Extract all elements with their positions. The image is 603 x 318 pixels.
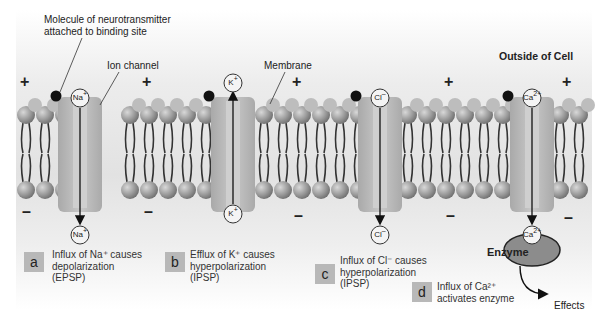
lipid-head: [437, 181, 455, 199]
lipid-tail: [575, 123, 584, 182]
lipid-tail: [404, 123, 413, 182]
positive-sign: +: [20, 74, 29, 90]
lipid-head: [140, 181, 158, 199]
lipid-tail: [336, 123, 345, 182]
panel-caption-b: Efflux of K⁺ causes hyperpolarization (I…: [190, 249, 275, 284]
lipid-head: [293, 181, 311, 199]
lipid-tail: [298, 123, 307, 182]
lipid-head: [17, 181, 35, 199]
lipid-head: [475, 181, 493, 199]
ion-label-k: K+: [224, 208, 242, 220]
panel-caption-a: Influx of Na⁺ causes depolarization (EPS…: [52, 249, 142, 284]
lipid-tail: [164, 123, 173, 182]
lipid-head: [274, 181, 292, 199]
ion-label-cl: Cl–: [371, 229, 389, 241]
leader-line: [270, 72, 285, 104]
lipid-head: [312, 181, 330, 199]
lipid-head-back: [189, 98, 203, 112]
lipid-tail: [461, 123, 470, 182]
panel-badge-a: a: [24, 252, 44, 272]
panel-badge-d: d: [412, 282, 432, 302]
neurotransmitter-molecule: [503, 91, 514, 102]
outside-of-cell-label: Outside of Cell: [499, 50, 573, 62]
neurotransmitter-annotation: Molecule of neurotransmitter attached to…: [44, 14, 171, 38]
ion-label-cl: Cl–: [371, 92, 389, 104]
lipid-head: [36, 181, 54, 199]
lipid-head: [570, 181, 588, 199]
lipid-head-back: [323, 98, 337, 112]
negative-sign: –: [564, 210, 573, 226]
lipid-head-back: [266, 98, 280, 112]
lipid-head-back: [28, 98, 42, 112]
lipid-head: [121, 181, 139, 199]
ion-channel-annotation: Ion channel: [107, 60, 159, 72]
leader-line: [60, 38, 82, 92]
neurotransmitter-molecule: [351, 91, 362, 102]
negative-sign: –: [446, 208, 455, 224]
panel-caption-d: Influx of Ca²⁺ activates enzyme: [437, 281, 514, 304]
lipid-tail: [442, 123, 451, 182]
lipid-tail: [41, 123, 50, 182]
lipid-tail: [260, 123, 269, 182]
ion-label-k: K+: [224, 77, 242, 89]
ion-label-ca: Ca2+: [523, 92, 541, 104]
lipid-head-back: [410, 98, 424, 112]
lipid-tail: [279, 123, 288, 182]
lipid-head: [494, 181, 512, 199]
leader-line: [100, 72, 119, 105]
positive-sign: +: [292, 74, 301, 90]
lipid-tail: [423, 123, 432, 182]
lipid-head-back: [151, 98, 165, 112]
panel-badge-b: b: [165, 252, 185, 272]
neurotransmitter-molecule: [204, 91, 215, 102]
lipid-head-back: [562, 98, 576, 112]
lipid-head: [159, 181, 177, 199]
lipid-tail: [22, 123, 31, 182]
lipid-tail: [480, 123, 489, 182]
negative-sign: –: [294, 208, 303, 224]
enzyme-label: Enzyme: [487, 246, 529, 258]
positive-sign: +: [444, 74, 453, 90]
lipid-tail: [317, 123, 326, 182]
ion-label-na: Na+: [71, 92, 89, 104]
lipid-head-back: [429, 98, 443, 112]
lipid-tail: [126, 123, 135, 182]
effects-arrow: [520, 266, 546, 294]
panel-badge-c: c: [315, 264, 335, 284]
lipid-head-back: [581, 98, 595, 112]
ion-label-ca: Ca2+: [523, 229, 541, 241]
lipid-head-back: [132, 98, 146, 112]
ion-label-na: Na+: [71, 229, 89, 241]
effects-label: Effects: [554, 300, 584, 312]
negative-sign: –: [22, 204, 31, 220]
lipid-head-back: [486, 98, 500, 112]
lipid-head: [456, 181, 474, 199]
lipid-tail: [183, 123, 192, 182]
lipid-head-back: [467, 98, 481, 112]
lipid-tail: [145, 123, 154, 182]
lipid-tail: [499, 123, 508, 182]
positive-sign: +: [562, 74, 571, 90]
lipid-head-back: [285, 98, 299, 112]
lipid-tail: [556, 123, 565, 182]
lipid-head-back: [304, 98, 318, 112]
lipid-head: [418, 181, 436, 199]
lipid-head-back: [448, 98, 462, 112]
lipid-head: [255, 181, 273, 199]
lipid-head: [178, 181, 196, 199]
negative-sign: –: [144, 204, 153, 220]
lipid-head: [331, 181, 349, 199]
positive-sign: +: [142, 74, 151, 90]
neurotransmitter-molecule: [51, 91, 62, 102]
membrane-annotation: Membrane: [264, 60, 312, 72]
lipid-head-back: [170, 98, 184, 112]
lipid-tail: [202, 123, 211, 182]
